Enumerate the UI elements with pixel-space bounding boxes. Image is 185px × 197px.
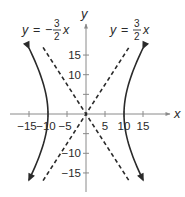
eq-left-var: x xyxy=(62,23,70,37)
equation-label-left: y = − 3 2 x xyxy=(21,18,70,42)
eq-right-numerator: 3 xyxy=(134,18,140,29)
x-tick-label: 15 xyxy=(137,120,150,132)
eq-right-var: x xyxy=(142,23,150,37)
y-tick-label: −15 xyxy=(61,167,81,179)
y-tick-label: 15 xyxy=(68,49,81,61)
eq-left-sign: − xyxy=(45,23,52,37)
x-tick-label: −5 xyxy=(58,120,71,132)
hyperbola-chart: −15−10−5510151510−10−15 x y y = − 3 2 x … xyxy=(0,0,185,197)
eq-right-lhs: y xyxy=(109,23,117,37)
eq-left-numerator: 3 xyxy=(54,18,60,29)
y-tick-label: 10 xyxy=(68,69,81,81)
x-tick-label: −15 xyxy=(17,120,37,132)
eq-left-equals: = xyxy=(33,23,40,37)
eq-right-equals: = xyxy=(121,23,128,37)
y-tick-label: −10 xyxy=(61,147,81,159)
eq-left-denominator: 2 xyxy=(54,31,60,42)
x-axis-label: x xyxy=(173,106,181,121)
y-axis-label: y xyxy=(80,6,89,21)
eq-left-lhs: y xyxy=(21,23,29,37)
equation-label-right: y = 3 2 x xyxy=(109,18,150,42)
x-tick-label: 5 xyxy=(102,120,108,132)
eq-right-denominator: 2 xyxy=(134,31,140,42)
